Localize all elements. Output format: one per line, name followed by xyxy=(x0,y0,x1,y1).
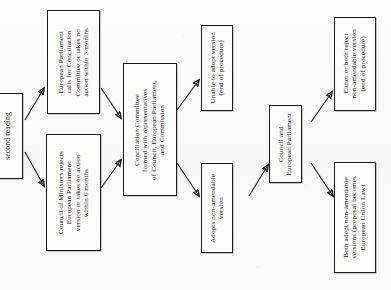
edge-second-reading-to-council-rejects xyxy=(25,152,44,186)
node-both-adopt-label: Both adopt non-amendable versions (propo… xyxy=(342,176,367,259)
edge-council-rejects-to-conciliation xyxy=(101,160,121,188)
node-ep-calls-conciliation-label: European Parliament calls for Conciliati… xyxy=(57,28,90,97)
edge-adopts-to-council-and-ep xyxy=(249,165,268,196)
node-unable-to-adopt[interactable]: Unable to adopt version (end of procedur… xyxy=(201,25,233,111)
edge-conciliation-to-unable-adopt xyxy=(177,80,199,110)
edge-council-ep-to-reject xyxy=(311,92,332,122)
node-second-reading[interactable]: second reading xyxy=(0,93,23,179)
edge-council-ep-to-both-adopt xyxy=(311,163,333,196)
node-second-reading-label: second reading xyxy=(4,112,13,160)
flowchart-canvas: second reading European Parliament calls… xyxy=(0,0,391,290)
node-conciliation-committee[interactable]: Conciliation Committee formed with repre… xyxy=(123,63,177,196)
node-council-and-ep-label: Council and European Parliament xyxy=(277,113,294,176)
edge-second-reading-to-ep-calls xyxy=(25,88,44,120)
node-unable-to-adopt-label: Unable to adopt version (end of procedur… xyxy=(209,32,226,103)
node-either-or-both-reject[interactable]: Either or both reject non-amendable vers… xyxy=(334,17,376,111)
edge-ep-calls-to-conciliation xyxy=(101,88,121,118)
node-both-adopt[interactable]: Both adopt non-amendable versions (propo… xyxy=(334,162,376,273)
edge-conciliation-to-adopts xyxy=(177,163,199,196)
node-ep-calls-conciliation[interactable]: European Parliament calls for Conciliati… xyxy=(47,10,100,114)
node-council-and-ep[interactable]: Council and European Parliament xyxy=(269,105,302,183)
node-either-or-both-reject-label: Either or both reject non-amendable vers… xyxy=(342,29,367,99)
node-adopts-non-amendable-label: Adopts non-amendable version xyxy=(209,174,226,243)
node-council-rejects-label: Council of Ministers rejects European Pa… xyxy=(57,151,90,234)
node-conciliation-committee-label: Conciliation Committee formed with repre… xyxy=(133,80,166,180)
node-adopts-non-amendable[interactable]: Adopts non-amendable version xyxy=(201,163,233,253)
node-council-rejects[interactable]: Council of Ministers rejects European Pa… xyxy=(46,134,101,251)
